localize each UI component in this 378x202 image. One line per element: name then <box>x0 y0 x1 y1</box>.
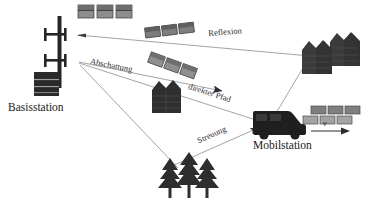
mobile-station-label: Mobilstation <box>253 140 312 152</box>
building-row-icon-mobile <box>303 106 360 124</box>
base-station-label: Basisstation <box>8 102 64 114</box>
velocity-label: v <box>323 120 327 128</box>
house-icon-center <box>152 80 181 113</box>
house-cluster-icon <box>302 32 360 74</box>
propagation-diagram: Basisstation Mobilstation Reflexion Absc… <box>0 0 378 202</box>
van-icon <box>253 111 306 140</box>
building-row-icon-top <box>78 5 132 18</box>
building-row-tilted-upper-icon <box>145 22 195 38</box>
base-station-box-icon <box>34 72 59 96</box>
tree-cluster-icon <box>158 152 219 198</box>
building-row-tilted-lower-icon <box>148 52 198 79</box>
